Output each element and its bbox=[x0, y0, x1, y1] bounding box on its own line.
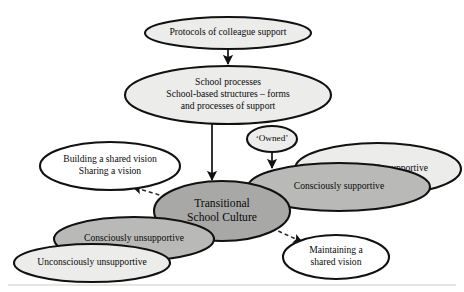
maintaining-a-shared-vision-label-line: shared vision bbox=[311, 256, 362, 267]
node-protocols-of-colleague-support[interactable]: Protocols of colleague support bbox=[145, 17, 311, 49]
node-building-a-shared-vision[interactable]: Building a shared visionSharing a vision bbox=[40, 142, 180, 190]
nodes-layer: Protocols of colleague supportSchool pro… bbox=[14, 17, 461, 282]
consciously-unsupportive-label-line: Consciously unsupportive bbox=[84, 232, 184, 243]
maintaining-a-shared-vision-label: Maintaining ashared vision bbox=[309, 244, 363, 267]
owned-label: ‘Owned’ bbox=[256, 133, 289, 143]
diagram-root: Protocols of colleague supportSchool pro… bbox=[0, 0, 464, 292]
protocols-of-colleague-support-label-line: Protocols of colleague support bbox=[170, 26, 287, 37]
node-school-processes[interactable]: School processesSchool-based structures … bbox=[125, 66, 331, 124]
node-maintaining-a-shared-vision[interactable]: Maintaining ashared vision bbox=[283, 235, 389, 279]
unconsciously-unsupportive-label-line: Unconsciously unsupportive bbox=[37, 256, 147, 267]
consciously-supportive-label: Consciously supportive bbox=[294, 180, 384, 191]
school-processes-label-line: School processes bbox=[195, 76, 261, 87]
school-processes-label-line: School-based structures – forms bbox=[166, 88, 290, 99]
owned-label-line: ‘Owned’ bbox=[256, 133, 289, 143]
node-owned[interactable]: ‘Owned’ bbox=[247, 126, 297, 152]
transitional-school-culture-label-line: Transitional bbox=[194, 197, 250, 210]
protocols-of-colleague-support-label: Protocols of colleague support bbox=[170, 26, 287, 37]
maintaining-a-shared-vision-label-line: Maintaining a bbox=[309, 244, 363, 255]
building-a-shared-vision-label-line: Sharing a vision bbox=[79, 165, 142, 176]
unconsciously-unsupportive-label: Unconsciously unsupportive bbox=[37, 256, 147, 267]
transitional-school-culture-label: TransitionalSchool Culture bbox=[187, 197, 257, 224]
diagram-canvas: Protocols of colleague supportSchool pro… bbox=[0, 0, 464, 292]
consciously-unsupportive-label: Consciously unsupportive bbox=[84, 232, 184, 243]
node-unconsciously-unsupportive[interactable]: Unconsciously unsupportive bbox=[14, 244, 170, 282]
building-a-shared-vision-label-line: Building a shared vision bbox=[63, 153, 157, 164]
consciously-supportive-label-line: Consciously supportive bbox=[294, 180, 384, 191]
school-processes-label-line: and processes of support bbox=[181, 100, 276, 111]
transitional-school-culture-label-line: School Culture bbox=[187, 211, 257, 224]
